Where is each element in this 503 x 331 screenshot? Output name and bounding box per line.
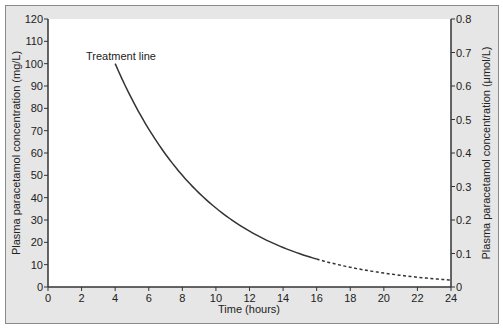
x-tick-label: 16 bbox=[311, 292, 323, 304]
x-tick-label: 22 bbox=[411, 292, 423, 304]
y-axis-title-right: Plasma paracetamol concentration (μmol/L… bbox=[480, 47, 492, 260]
paracetamol-nomogram-chart: 0102030405060708090100110120024681012141… bbox=[0, 0, 503, 331]
y-right-tick-label: 0.1 bbox=[456, 248, 471, 260]
treatment-line-label: Treatment line bbox=[86, 50, 156, 62]
y-tick-label: 110 bbox=[25, 35, 43, 47]
y-right-tick-label: 0.6 bbox=[456, 80, 471, 92]
x-tick-label: 20 bbox=[378, 292, 390, 304]
y-tick-label: 90 bbox=[31, 80, 43, 92]
y-tick-label: 60 bbox=[31, 147, 43, 159]
y-right-tick-label: 0.5 bbox=[456, 114, 471, 126]
y-axis-title-left: Plasma paracetamol concentration (mg/L) bbox=[10, 51, 22, 255]
x-tick-label: 2 bbox=[79, 292, 85, 304]
y-tick-label: 10 bbox=[31, 259, 43, 271]
x-tick-label: 4 bbox=[112, 292, 118, 304]
y-right-tick-label: 0 bbox=[456, 281, 462, 293]
y-tick-label: 30 bbox=[31, 214, 43, 226]
x-tick-label: 6 bbox=[146, 292, 152, 304]
y-tick-label: 80 bbox=[31, 102, 43, 114]
y-right-tick-label: 0.2 bbox=[456, 214, 471, 226]
y-right-tick-label: 0.4 bbox=[456, 147, 471, 159]
y-tick-label: 70 bbox=[31, 125, 43, 137]
x-tick-label: 8 bbox=[179, 292, 185, 304]
y-tick-label: 120 bbox=[25, 13, 43, 25]
x-tick-label: 24 bbox=[445, 292, 457, 304]
y-tick-label: 50 bbox=[31, 169, 43, 181]
y-tick-label: 40 bbox=[31, 192, 43, 204]
y-right-tick-label: 0.3 bbox=[456, 181, 471, 193]
x-axis-title: Time (hours) bbox=[218, 303, 280, 315]
x-tick-label: 0 bbox=[45, 292, 51, 304]
x-tick-label: 18 bbox=[344, 292, 356, 304]
y-right-tick-label: 0.8 bbox=[456, 13, 471, 25]
y-right-tick-label: 0.7 bbox=[456, 47, 471, 59]
y-tick-label: 0 bbox=[37, 281, 43, 293]
y-tick-label: 20 bbox=[31, 236, 43, 248]
y-tick-label: 100 bbox=[25, 58, 43, 70]
